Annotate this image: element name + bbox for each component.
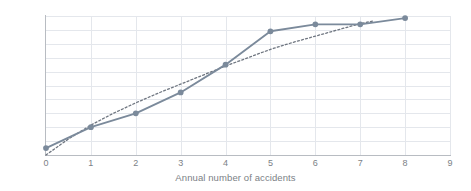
x-tick-label: 0 [43, 158, 48, 168]
gridline-horizontal [46, 72, 450, 73]
x-tick-label: 5 [268, 158, 273, 168]
x-tick-label: 1 [88, 158, 93, 168]
gridline-horizontal [46, 113, 450, 114]
chart-container: 00,10,20,30,40,50,60,70,80,91 0123456789… [0, 0, 471, 191]
x-tick-label: 8 [403, 158, 408, 168]
gridline-horizontal [46, 99, 450, 100]
gridline-horizontal [46, 58, 450, 59]
x-tick-label: 3 [178, 158, 183, 168]
plot-area [46, 16, 450, 155]
gridline-horizontal [46, 86, 450, 87]
gridline-vertical [226, 16, 227, 155]
gridline-vertical [181, 16, 182, 155]
x-tick-label: 9 [447, 158, 452, 168]
y-axis-line [45, 15, 46, 156]
gridline-vertical [91, 16, 92, 155]
x-axis-title: Annual number of accidents [0, 172, 471, 183]
gridline-vertical [405, 16, 406, 155]
gridline-horizontal [46, 30, 450, 31]
gridline-horizontal [46, 16, 450, 17]
x-tick-label: 2 [133, 158, 138, 168]
gridline-vertical [270, 16, 271, 155]
gridline-vertical [315, 16, 316, 155]
gridline-vertical [136, 16, 137, 155]
x-tick-label: 4 [223, 158, 228, 168]
gridline-vertical [360, 16, 361, 155]
gridline-horizontal [46, 127, 450, 128]
gridline-vertical [450, 16, 451, 155]
x-tick-label: 6 [313, 158, 318, 168]
gridline-horizontal [46, 44, 450, 45]
gridline-horizontal [46, 141, 450, 142]
x-axis-line [45, 155, 451, 156]
x-tick-label: 7 [358, 158, 363, 168]
